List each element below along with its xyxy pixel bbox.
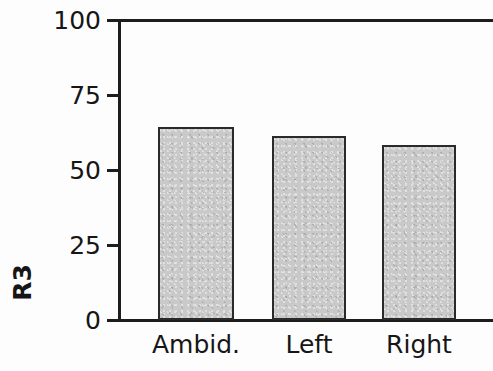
y-tick-mark-50 — [107, 169, 120, 172]
x-tick-label-ambid: Ambid. — [136, 330, 256, 359]
y-tick-label-0: 0 — [39, 306, 101, 335]
y-tick-mark-0 — [107, 319, 120, 322]
y-tick-mark-75 — [107, 94, 120, 97]
bar-chart-figure: R3 100 75 50 25 0 Ambid. Left Right — [0, 0, 493, 371]
y-tick-label-75: 75 — [39, 81, 101, 110]
x-tick-label-right: Right — [359, 330, 479, 359]
y-tick-mark-25 — [107, 244, 120, 247]
y-tick-label-25: 25 — [39, 231, 101, 260]
y-tick-label-50: 50 — [39, 156, 101, 185]
y-tick-mark-100 — [107, 19, 120, 22]
bar-right — [382, 145, 456, 320]
plot-top-spine — [107, 19, 493, 22]
y-tick-label-100: 100 — [39, 6, 101, 35]
bar-ambid — [158, 127, 234, 320]
y-axis-title: R3 — [8, 253, 37, 313]
x-tick-label-left: Left — [249, 330, 369, 359]
bar-left — [272, 136, 346, 320]
